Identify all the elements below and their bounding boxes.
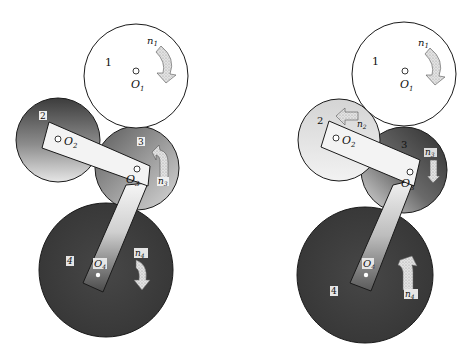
right-o2-pivot <box>333 135 339 141</box>
right-o4-pivot <box>364 273 368 277</box>
right-gear-2-label: 2 <box>317 115 323 126</box>
right-o3-pivot <box>407 169 413 175</box>
left-gear-2-label: 2 <box>40 111 46 121</box>
left-gear-4-label: 4 <box>66 256 73 266</box>
right-diagram: 1 O1 n1 2 n2 O2 3 n3 O3 O4 4 n4 <box>297 22 456 343</box>
planetary-gear-diagrams: 1 O1 n1 2 O2 3 O3 n3 4 O4 n4 <box>0 0 472 360</box>
left-o1-pivot <box>133 68 139 74</box>
left-o4-pivot <box>96 273 100 277</box>
right-o1-pivot <box>402 68 408 74</box>
left-o3-pivot <box>134 166 140 172</box>
right-gear-4-label: 4 <box>331 286 337 296</box>
right-gear-1-label: 1 <box>372 55 379 68</box>
left-diagram: 1 O1 n1 2 O2 3 O3 n3 4 O4 n4 <box>16 24 188 337</box>
left-o2-pivot <box>55 136 61 142</box>
right-gear-3-label: 3 <box>401 139 407 150</box>
left-gear-3-label: 3 <box>138 137 144 147</box>
left-gear-1-label: 1 <box>105 56 112 69</box>
